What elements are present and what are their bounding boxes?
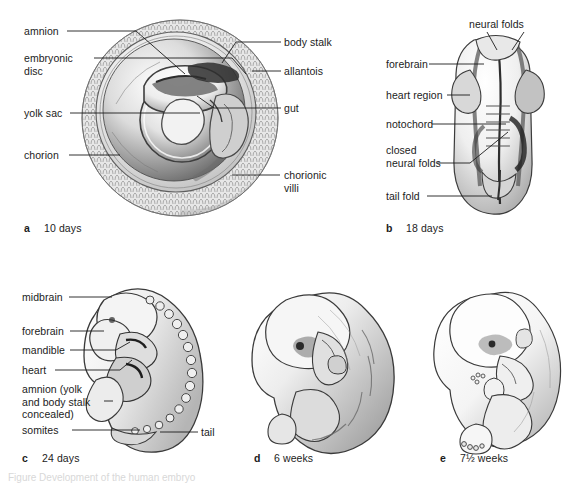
label-closed-line1: closed <box>386 144 441 157</box>
label-midbrain: midbrain <box>22 291 63 304</box>
panel-c-title: 24 days <box>42 452 79 464</box>
label-closed-line2: neural folds <box>386 157 441 170</box>
panel-e-letter: e <box>440 452 460 464</box>
label-notochord: notochord <box>386 118 433 131</box>
panel-e-caption: e7½ weeks <box>440 452 508 464</box>
label-chorionic-villi-line2: villi <box>284 182 326 195</box>
panel-c-caption: c24 days <box>22 452 79 464</box>
label-amnion-line3: concealed) <box>22 408 90 421</box>
panel-b-art <box>452 35 545 214</box>
label-amnion-concealed: amnion (yolk and body stalk concealed) <box>22 383 90 421</box>
panel-e-art <box>434 292 561 454</box>
panel-a-caption: a10 days <box>24 222 81 234</box>
panel-d-title: 6 weeks <box>274 452 313 464</box>
panel-c-letter: c <box>22 452 42 464</box>
panel-e-title: 7½ weeks <box>460 452 508 464</box>
label-gut: gut <box>284 102 299 115</box>
panel-a-letter: a <box>24 222 44 234</box>
label-mandible: mandible <box>22 344 65 357</box>
label-forebrain-b: forebrain <box>386 58 428 71</box>
panel-a-art <box>82 20 278 216</box>
label-body-stalk: body stalk <box>284 36 332 49</box>
label-embryonic-disc-line1: embryonic <box>24 52 73 65</box>
panel-d-caption: d6 weeks <box>254 452 313 464</box>
label-heart-region: heart region <box>386 89 443 102</box>
label-allantois: allantois <box>284 65 323 78</box>
label-yolk-sac: yolk sac <box>24 107 62 120</box>
label-chorionic-villi: chorionic villi <box>284 169 326 194</box>
panel-d-letter: d <box>254 452 274 464</box>
label-chorion: chorion <box>24 149 59 162</box>
label-forebrain-c: forebrain <box>22 325 64 338</box>
figure-caption-truncated: Figure Development of the human embryo <box>8 472 195 483</box>
label-closed-neural-folds: closed neural folds <box>386 144 441 169</box>
panel-b-caption: b18 days <box>386 222 443 234</box>
label-somites: somites <box>22 424 59 437</box>
label-heart: heart <box>22 364 46 377</box>
panel-a-title: 10 days <box>44 222 81 234</box>
label-tail: tail <box>201 426 215 439</box>
label-chorionic-villi-line1: chorionic <box>284 169 326 182</box>
label-neural-folds: neural folds <box>469 18 524 31</box>
label-embryonic-disc-line2: disc <box>24 65 73 78</box>
panel-d-art <box>252 293 394 454</box>
label-tail-fold: tail fold <box>386 190 420 203</box>
label-amnion-line2: and body stalk <box>22 396 90 409</box>
panel-b-letter: b <box>386 222 406 234</box>
panel-b-title: 18 days <box>406 222 443 234</box>
panel-c-art <box>84 289 203 452</box>
label-embryonic-disc: embryonic disc <box>24 52 73 77</box>
label-amnion: amnion <box>24 25 59 38</box>
label-amnion-line1: amnion (yolk <box>22 383 90 396</box>
